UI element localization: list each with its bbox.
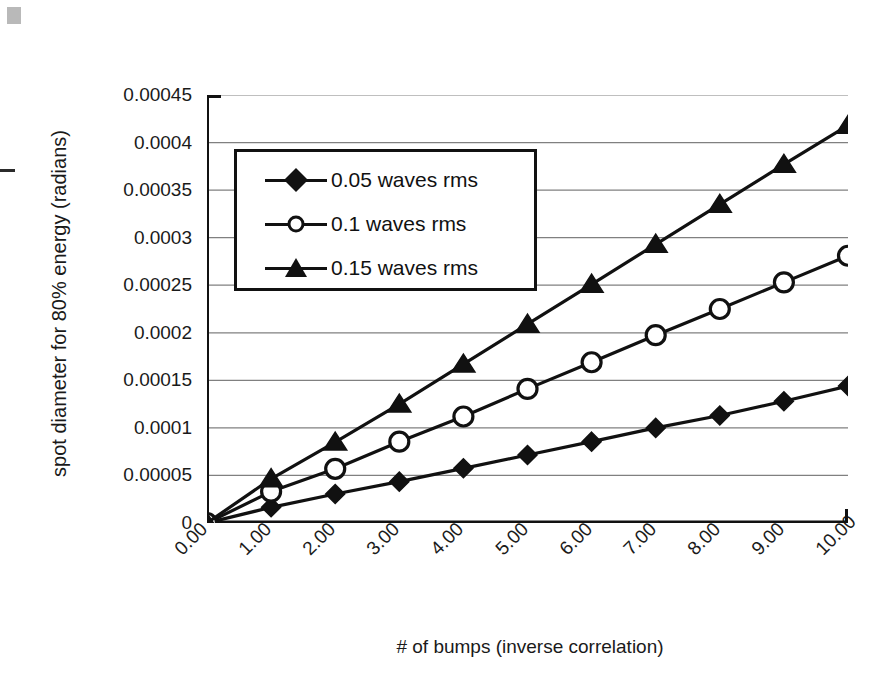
- x-axis-tick-label: 4.00: [427, 519, 467, 559]
- data-point-marker: [326, 484, 345, 503]
- data-point-marker: [454, 407, 473, 426]
- data-point-marker: [326, 459, 345, 478]
- x-axis-tick-label: 3.00: [363, 519, 403, 559]
- legend-key-open-circle-icon: [265, 209, 327, 239]
- data-point-marker: [516, 314, 539, 332]
- x-axis-tick-label: 7.00: [620, 519, 660, 559]
- data-point-marker: [710, 406, 729, 425]
- x-axis-tick-label: 6.00: [556, 519, 596, 559]
- chart-page: spot diameter for 80% energy (radians) #…: [0, 0, 874, 684]
- data-point-marker: [708, 194, 731, 212]
- data-point-marker: [518, 445, 537, 464]
- data-point-marker: [580, 274, 603, 292]
- data-point-marker: [388, 394, 411, 412]
- legend-key-filled-triangle-icon: [265, 253, 327, 283]
- legend-item-1[interactable]: 0.1 waves rms: [237, 202, 534, 246]
- data-point-marker: [390, 432, 409, 451]
- data-point-marker: [839, 246, 849, 265]
- legend-label-0: 0.05 waves rms: [331, 168, 478, 192]
- data-point-marker: [646, 326, 665, 345]
- x-axis-tick-label: 1.00: [235, 519, 275, 559]
- x-axis-tick-label: 2.00: [299, 519, 339, 559]
- data-point-marker: [644, 234, 667, 252]
- data-point-marker: [772, 154, 795, 172]
- legend-label-1: 0.1 waves rms: [331, 212, 466, 236]
- x-axis-tick-label: 5.00: [492, 519, 532, 559]
- data-point-marker: [837, 115, 849, 133]
- legend-label-2: 0.15 waves rms: [331, 256, 478, 280]
- legend-key-filled-diamond-icon: [265, 165, 327, 195]
- data-point-marker: [774, 392, 793, 411]
- data-point-marker: [774, 273, 793, 292]
- data-point-marker: [452, 354, 475, 372]
- data-point-marker: [839, 377, 849, 396]
- data-point-marker: [260, 469, 283, 487]
- data-point-marker: [646, 418, 665, 437]
- x-axis-tick-label: 9.00: [748, 519, 788, 559]
- data-point-marker: [582, 432, 601, 451]
- x-axis-tick-label: 8.00: [684, 519, 724, 559]
- chart-legend: 0.05 waves rms 0.1 waves rms 0.15 waves …: [234, 149, 537, 291]
- x-axis-tick-label: 0.00: [171, 519, 211, 559]
- data-point-marker: [710, 300, 729, 319]
- data-point-marker: [518, 379, 537, 398]
- data-point-marker: [324, 432, 347, 450]
- legend-item-2[interactable]: 0.15 waves rms: [237, 246, 534, 290]
- data-point-marker: [582, 353, 601, 372]
- legend-item-0[interactable]: 0.05 waves rms: [237, 158, 534, 202]
